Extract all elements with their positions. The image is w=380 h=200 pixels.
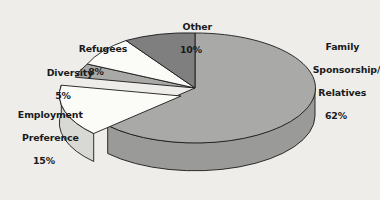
slice-value-employment-preference: 15% [2, 155, 86, 166]
slice-value-family-sponsorship: 62% [300, 110, 372, 121]
slice-label-diversity-text: Diversity [47, 67, 94, 78]
slice-label-employment-preference: Employment Preference 15% [2, 98, 86, 189]
slice-label-family-line3: Relatives [318, 87, 366, 98]
slice-label-family-line1: Family [325, 41, 359, 52]
slice-value-other: 10% [156, 44, 226, 55]
slice-label-employment-line1: Employment [18, 109, 83, 120]
slice-label-employment-line2: Preference [22, 132, 79, 143]
slice-label-refugees-text: Refugees [79, 43, 128, 54]
slice-label-other-text: Other [183, 21, 213, 32]
slice-label-family-line2: Sponsorship/ [313, 64, 380, 75]
slice-label-family-sponsorship: Family Sponsorship/ Relatives 62% [300, 30, 372, 144]
slice-label-other: Other 10% [156, 10, 226, 78]
